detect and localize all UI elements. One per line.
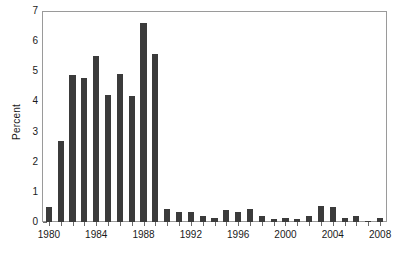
x-tick-mark: [108, 222, 109, 226]
x-tick-mark: [61, 222, 62, 226]
x-tick-mark: [144, 222, 145, 226]
plot-area: [43, 12, 386, 222]
x-tick-mark: [274, 222, 275, 226]
x-tick-label: 1980: [29, 229, 69, 241]
x-tick-label: 1988: [124, 229, 164, 241]
x-axis-tick-marks: [43, 222, 387, 227]
bar: [81, 78, 87, 222]
x-tick-mark: [155, 222, 156, 226]
x-tick-label: 2008: [360, 229, 400, 241]
y-tick-label: 1: [12, 187, 38, 197]
x-tick-mark: [380, 222, 381, 226]
bar: [235, 212, 241, 223]
x-tick-mark: [84, 222, 85, 226]
y-tick-label: 4: [12, 96, 38, 106]
bar: [105, 95, 111, 223]
bar: [69, 75, 75, 222]
bar: [152, 54, 158, 222]
x-tick-mark: [215, 222, 216, 226]
x-tick-mark: [262, 222, 263, 226]
x-tick-mark: [368, 222, 369, 226]
y-tick-label: 2: [12, 157, 38, 167]
bar: [330, 207, 336, 222]
bar-series: [43, 12, 386, 222]
x-tick-mark: [120, 222, 121, 226]
bar-chart-figure: Percent 01234567 19801984198819921996200…: [0, 0, 404, 265]
y-axis-tick-labels: 01234567: [8, 11, 38, 222]
x-tick-mark: [96, 222, 97, 226]
x-tick-mark: [250, 222, 251, 226]
x-tick-label: 2004: [313, 229, 353, 241]
x-tick-label: 1992: [171, 229, 211, 241]
x-tick-mark: [333, 222, 334, 226]
x-tick-label: 1996: [218, 229, 258, 241]
x-tick-label: 1984: [76, 229, 116, 241]
y-tick-label: 5: [12, 66, 38, 76]
bar: [93, 56, 99, 223]
bar: [223, 210, 229, 222]
bar: [188, 212, 194, 223]
x-tick-mark: [179, 222, 180, 226]
x-tick-mark: [132, 222, 133, 226]
bar: [164, 209, 170, 223]
y-tick-label: 7: [12, 6, 38, 16]
x-tick-mark: [345, 222, 346, 226]
x-tick-mark: [321, 222, 322, 226]
bar: [129, 96, 135, 222]
y-tick-label: 0: [12, 217, 38, 227]
y-tick-label: 6: [12, 36, 38, 46]
bar: [176, 212, 182, 223]
bar: [58, 141, 64, 222]
x-tick-mark: [285, 222, 286, 226]
x-tick-mark: [49, 222, 50, 226]
x-tick-mark: [226, 222, 227, 226]
bar: [117, 74, 123, 223]
bar: [140, 23, 146, 223]
x-tick-mark: [297, 222, 298, 226]
x-tick-mark: [73, 222, 74, 226]
bar: [318, 206, 324, 223]
x-tick-mark: [238, 222, 239, 226]
x-tick-mark: [203, 222, 204, 226]
x-tick-label: 2000: [265, 229, 305, 241]
x-tick-mark: [356, 222, 357, 226]
x-axis-tick-labels: 19801984198819921996200020042008: [43, 229, 387, 243]
x-tick-mark: [309, 222, 310, 226]
x-tick-mark: [167, 222, 168, 226]
x-tick-mark: [191, 222, 192, 226]
y-tick-label: 3: [12, 127, 38, 137]
bar: [247, 209, 253, 223]
bar: [46, 207, 52, 222]
